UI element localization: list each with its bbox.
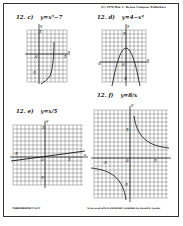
svg-text:5: 5 xyxy=(64,54,67,59)
panel-e-title: 12. e) y=x/5 xyxy=(16,108,57,114)
graph-e: y5 -5x 05 -5 xyxy=(10,118,88,190)
svg-text:y: y xyxy=(45,118,49,123)
svg-text:y: y xyxy=(39,23,43,28)
panel-d-label: 12. d) xyxy=(97,14,115,20)
svg-text:5: 5 xyxy=(154,158,157,163)
panel-c-equation: y=x³−7 xyxy=(40,14,62,20)
svg-text:5: 5 xyxy=(39,29,42,34)
svg-text:-5: -5 xyxy=(124,182,128,187)
graph-f: y5 -50 5-5 xyxy=(91,102,171,204)
panel-f-title: 12. f) y=8/x xyxy=(97,92,137,98)
svg-text:x: x xyxy=(84,152,87,157)
panel-d-title: 12. d) y=4−x² xyxy=(97,14,144,20)
svg-text:5: 5 xyxy=(126,127,129,132)
svg-text:x: x xyxy=(147,57,150,62)
panel-f-label: 12. f) xyxy=(97,92,113,98)
svg-text:0: 0 xyxy=(126,158,129,163)
panel-f-equation: y=8/x xyxy=(120,92,137,98)
svg-text:0: 0 xyxy=(35,54,38,59)
graph-c: y5 x5 0-5 xyxy=(26,24,71,84)
svg-text:5: 5 xyxy=(42,125,45,130)
svg-text:-5: -5 xyxy=(14,151,18,156)
panel-e-equation: y=x/5 xyxy=(41,108,58,114)
svg-text:x: x xyxy=(68,49,71,54)
svg-text:y: y xyxy=(126,23,130,28)
svg-text:-5: -5 xyxy=(32,70,36,75)
panel-c-title: 12. c) y=x³−7 xyxy=(16,14,62,20)
svg-text:0: 0 xyxy=(122,62,125,67)
svg-text:0: 0 xyxy=(41,157,44,162)
svg-text:-5: -5 xyxy=(103,160,107,165)
svg-text:5: 5 xyxy=(123,31,126,36)
panel-e-label: 12. e) xyxy=(16,108,34,114)
svg-text:y: y xyxy=(130,102,134,107)
svg-text:-5: -5 xyxy=(97,61,101,66)
publication-credit: To be used with ELEMENTARY ALGEBRA by Ha… xyxy=(87,207,160,210)
panel-d-equation: y=4−x² xyxy=(122,14,144,20)
svg-text:-5: -5 xyxy=(40,175,44,180)
svg-text:5: 5 xyxy=(68,157,71,162)
panel-c-label: 12. c) xyxy=(16,14,33,20)
graph-d: y5 -5x 0-5 xyxy=(101,24,151,86)
copyright-note: (C) 1978 Wm. C. Brown Company Publishers xyxy=(101,6,166,9)
transparency-label: TRANSPARENCY 6-17 xyxy=(12,207,40,210)
svg-text:-5: -5 xyxy=(123,76,127,81)
